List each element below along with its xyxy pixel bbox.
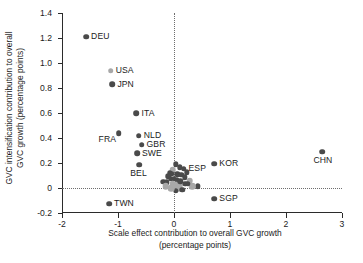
- point-label-sgp: SGP: [219, 193, 237, 203]
- point-label-chn: CHN: [313, 155, 332, 165]
- data-point-deu[interactable]: [83, 34, 89, 40]
- y-tick-label: 1.4: [40, 8, 52, 18]
- point-label-jpn: JPN: [117, 79, 134, 89]
- horizontal-reference-line: [62, 188, 342, 189]
- x-tick: [342, 213, 343, 218]
- data-point-bel[interactable]: [136, 162, 142, 168]
- x-tick: [286, 213, 287, 218]
- point-label-kor: KOR: [219, 158, 238, 168]
- y-tick: 1.0: [58, 63, 63, 64]
- y-tick: 1.2: [58, 38, 63, 39]
- y-tick-label: 1.2: [40, 33, 52, 43]
- y-axis-label-line1: GVC intensification contribution to over…: [4, 31, 14, 184]
- data-point-jpn[interactable]: [110, 81, 116, 87]
- data-point[interactable]: [162, 183, 169, 190]
- y-tick-label: -0.2: [37, 208, 52, 218]
- data-point[interactable]: [180, 187, 185, 192]
- y-tick-label: 0.2: [40, 158, 52, 168]
- x-tick: [62, 213, 63, 218]
- y-tick-label: 0.6: [40, 108, 52, 118]
- data-point-esp[interactable]: [181, 166, 187, 172]
- point-label-deu: DEU: [91, 31, 109, 41]
- y-tick: 1.4: [58, 13, 63, 14]
- y-tick-label: 0.4: [40, 133, 52, 143]
- x-tick: [174, 213, 175, 218]
- point-label-esp: ESP: [189, 163, 207, 173]
- y-tick-label: 0: [47, 183, 52, 193]
- y-tick: 0.6: [58, 113, 63, 114]
- point-label-twn: TWN: [114, 198, 134, 208]
- point-label-bel: BEL: [130, 168, 147, 178]
- scatter-chart-figure: GVC intensification contribution to over…: [0, 0, 363, 263]
- data-point-nld[interactable]: [136, 133, 142, 139]
- point-label-ita: ITA: [141, 108, 154, 118]
- y-axis-label: GVC intensification contribution to over…: [0, 0, 30, 215]
- data-point-kor[interactable]: [212, 161, 218, 167]
- point-label-fra: FRA: [99, 134, 117, 144]
- x-axis-line: [62, 212, 342, 213]
- point-label-usa: USA: [116, 65, 134, 75]
- data-point-chn[interactable]: [320, 149, 326, 155]
- x-axis-label-line1: Scale effect contribution to overall GVC…: [108, 228, 281, 238]
- data-point-swe[interactable]: [134, 150, 140, 156]
- plot-area: -0.200.20.40.60.81.01.21.4 -2-10123 DEUU…: [62, 13, 342, 213]
- y-tick: 0.8: [58, 88, 63, 89]
- y-tick-label: 0.8: [40, 83, 52, 93]
- y-tick: 0.4: [58, 138, 63, 139]
- x-axis-label-line2: (percentage points): [159, 240, 231, 250]
- data-point-fra[interactable]: [116, 130, 122, 136]
- y-tick: 0.2: [58, 163, 63, 164]
- data-point-usa[interactable]: [108, 68, 114, 74]
- y-axis-label-line2: GVC growth (percentage points): [15, 47, 25, 167]
- x-axis-label: Scale effect contribution to overall GVC…: [40, 228, 350, 251]
- data-point-sgp[interactable]: [212, 196, 218, 202]
- data-point-ita[interactable]: [134, 110, 140, 116]
- x-tick: [230, 213, 231, 218]
- point-label-swe: SWE: [142, 148, 162, 158]
- y-tick-label: 1.0: [40, 58, 52, 68]
- data-point-twn[interactable]: [106, 201, 112, 207]
- x-tick: [118, 213, 119, 218]
